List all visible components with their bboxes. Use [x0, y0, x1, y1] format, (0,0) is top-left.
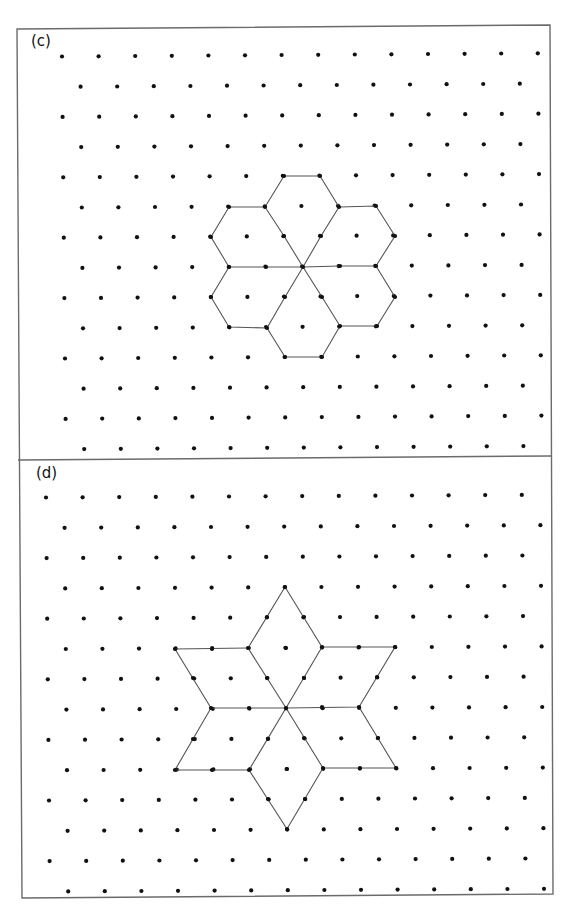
- grid-dot: [190, 265, 194, 269]
- grid-dot: [154, 326, 158, 330]
- grid-dot: [520, 553, 524, 557]
- grid-dot: [46, 677, 50, 681]
- grid-dot: [117, 495, 121, 499]
- grid-dot: [265, 446, 269, 450]
- grid-dot: [134, 114, 138, 118]
- grid-dot: [98, 175, 102, 179]
- grid-dot: [484, 324, 488, 328]
- vertex-dot: [320, 295, 324, 299]
- grid-dot: [538, 293, 542, 297]
- grid-dot: [520, 493, 524, 497]
- grid-dot: [522, 675, 526, 679]
- grid-dot: [372, 143, 376, 147]
- grid-dot: [338, 445, 342, 449]
- grid-dot: [64, 417, 68, 421]
- grid-dot: [155, 386, 159, 390]
- vertex-dot: [191, 676, 195, 680]
- grid-dot: [136, 525, 140, 529]
- grid-dot: [391, 173, 395, 177]
- vertex-dot: [285, 767, 289, 771]
- grid-dot: [464, 173, 468, 177]
- grid-dot: [262, 83, 266, 87]
- vertex-dot: [284, 646, 288, 650]
- grid-dot: [486, 735, 490, 739]
- grid-dot: [411, 615, 415, 619]
- grid-dot: [538, 232, 542, 236]
- grid-dot: [521, 444, 525, 448]
- grid-dot: [521, 614, 525, 618]
- grid-dot: [119, 447, 123, 451]
- vertex-dot: [284, 706, 288, 710]
- grid-dot: [469, 887, 473, 891]
- vertex-dot: [320, 355, 324, 359]
- grid-dot: [170, 54, 174, 58]
- grid-dot: [411, 554, 415, 558]
- grid-dot: [410, 324, 414, 328]
- grid-dot: [264, 494, 268, 498]
- vertex-dot: [246, 646, 250, 650]
- vertex-dot: [338, 264, 342, 268]
- grid-dot: [540, 705, 544, 709]
- vertex-dot: [337, 205, 341, 209]
- grid-dot: [117, 266, 121, 270]
- grid-dot: [505, 826, 509, 830]
- grid-dot: [115, 84, 119, 88]
- grid-dot: [353, 52, 357, 56]
- grid-dot: [62, 296, 66, 300]
- vertex-dot: [210, 647, 214, 651]
- vertex-dot: [338, 324, 342, 328]
- grid-dot: [102, 768, 106, 772]
- grid-dot: [229, 737, 233, 741]
- grid-dot: [60, 54, 64, 58]
- grid-dot: [518, 142, 522, 146]
- grid-dot: [301, 555, 305, 559]
- vertex-dot: [375, 675, 379, 679]
- grid-dot: [246, 585, 250, 589]
- grid-dot: [137, 416, 141, 420]
- vertex-dot: [393, 645, 397, 649]
- grid-dot: [173, 416, 177, 420]
- vertex-dot: [209, 706, 213, 710]
- grid-dot: [213, 889, 217, 893]
- vertex-dot: [283, 585, 287, 589]
- grid-dot: [45, 617, 49, 621]
- grid-dot: [304, 858, 308, 862]
- vertex-dot: [283, 295, 287, 299]
- grid-dot: [539, 353, 543, 357]
- vertex-dot: [247, 706, 251, 710]
- vertex-dot: [210, 768, 214, 772]
- panel-c-dot-grid: [60, 51, 544, 451]
- shape-edge: [175, 648, 248, 708]
- grid-dot: [338, 385, 342, 389]
- grid-dot: [539, 414, 543, 418]
- grid-dot: [354, 173, 358, 177]
- grid-dot: [502, 353, 506, 357]
- vertex-dot: [320, 645, 324, 649]
- grid-dot: [395, 827, 399, 831]
- grid-dot: [209, 355, 213, 359]
- grid-dot: [430, 706, 434, 710]
- grid-dot: [429, 524, 433, 528]
- vertex-dot: [318, 174, 322, 178]
- grid-dot: [340, 797, 344, 801]
- grid-dot: [244, 114, 248, 118]
- grid-dot: [134, 175, 138, 179]
- vertex-dot: [374, 264, 378, 268]
- grid-dot: [170, 114, 174, 118]
- grid-dot: [228, 616, 232, 620]
- grid-dot: [172, 295, 176, 299]
- grid-dot: [537, 172, 541, 176]
- grid-dot: [154, 265, 158, 269]
- grid-dot: [154, 495, 158, 499]
- vertex-dot: [302, 615, 306, 619]
- grid-dot: [193, 798, 197, 802]
- vertex-dot: [320, 705, 324, 709]
- grid-dot: [206, 53, 210, 57]
- vertex-dot: [173, 647, 177, 651]
- grid-dot: [374, 385, 378, 389]
- grid-dot: [446, 203, 450, 207]
- grid-dot: [337, 494, 341, 498]
- grid-dot: [542, 887, 546, 891]
- grid-dot: [412, 736, 416, 740]
- grid-dot: [450, 796, 454, 800]
